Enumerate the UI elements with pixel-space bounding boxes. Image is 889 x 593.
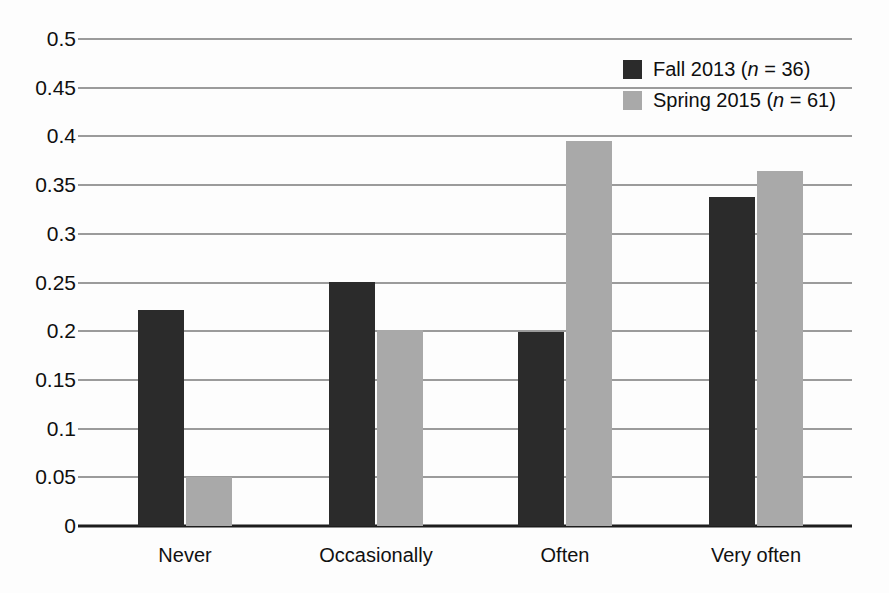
y-tick-dash <box>78 477 90 478</box>
x-axis-label-never: Never <box>158 544 211 567</box>
bar-very-often-series-2 <box>757 171 803 527</box>
y-tick-dash <box>78 233 90 234</box>
y-tick-label: 0.1 <box>47 417 76 441</box>
y-tick-label: 0.15 <box>35 368 76 392</box>
legend-entry-spring-2015: Spring 2015 (n = 61) <box>623 87 836 114</box>
y-tick-dash <box>78 136 90 137</box>
bar-never-series-1 <box>138 310 184 526</box>
y-tick-label: 0.4 <box>47 124 76 148</box>
gridline <box>90 39 852 40</box>
y-tick-dash <box>78 87 90 88</box>
legend-swatch-icon-dark <box>623 60 642 79</box>
bar-often-series-1 <box>518 332 564 526</box>
y-tick-label: 0.35 <box>35 173 76 197</box>
x-axis-label-occasionally: Occasionally <box>319 544 432 567</box>
legend-entry-fall-2013: Fall 2013 (n = 36) <box>623 56 836 83</box>
bar-occasionally-series-1 <box>329 282 375 526</box>
bar-often-series-2 <box>566 141 612 526</box>
x-axis-label-very-often: Very often <box>711 544 801 567</box>
gridline <box>90 136 852 137</box>
legend-label-fall-2013: Fall 2013 (n = 36) <box>653 58 810 81</box>
y-tick-label: 0.05 <box>35 465 76 489</box>
chart-legend: Fall 2013 (n = 36) Spring 2015 (n = 61) <box>623 56 836 118</box>
y-tick-label: 0.5 <box>47 27 76 51</box>
y-tick-dash <box>78 282 90 283</box>
y-tick-dash <box>78 428 90 429</box>
legend-label-spring-2015: Spring 2015 (n = 61) <box>653 89 836 112</box>
x-axis-label-often: Often <box>541 544 590 567</box>
gridline <box>90 185 852 186</box>
y-tick-label: 0 <box>64 514 76 538</box>
y-tick-dash <box>78 331 90 332</box>
legend-swatch-icon-light <box>623 91 642 110</box>
y-tick-dash <box>78 525 90 528</box>
bar-chart: 00.050.10.150.20.250.30.350.40.450.5 Nev… <box>0 0 889 593</box>
bar-occasionally-series-2 <box>377 330 423 526</box>
y-tick-dash <box>78 185 90 186</box>
y-tick-label: 0.2 <box>47 319 76 343</box>
bar-never-series-2 <box>186 477 232 526</box>
y-tick-label: 0.25 <box>35 271 76 295</box>
bar-very-often-series-1 <box>709 197 755 526</box>
y-tick-label: 0.3 <box>47 222 76 246</box>
y-tick-dash <box>78 379 90 380</box>
y-tick-label: 0.45 <box>35 76 76 100</box>
y-tick-dash <box>78 39 90 40</box>
